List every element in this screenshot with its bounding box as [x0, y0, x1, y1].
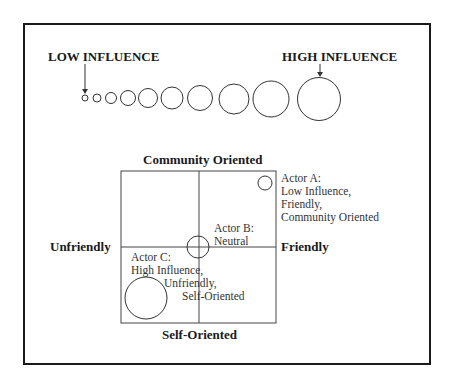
right-axis-label: Friendly	[281, 239, 329, 255]
influence-circle-7	[188, 86, 213, 111]
influence-circle-4	[121, 91, 136, 106]
influence-circle-8	[219, 84, 249, 114]
top-axis-label: Community Oriented	[143, 152, 263, 168]
bottom-axis-label: Self-Oriented	[162, 327, 237, 343]
left-axis-label: Unfriendly	[50, 239, 111, 255]
influence-circle-9	[253, 81, 289, 117]
low-influence-label: LOW INFLUENCE	[48, 49, 159, 65]
influence-circle-5	[139, 89, 158, 108]
influence-circle-1	[82, 95, 88, 101]
high-influence-label: HIGH INFLUENCE	[282, 49, 397, 65]
influence-circle-6	[161, 87, 183, 109]
influence-circle-3	[106, 93, 117, 104]
actor-b-note: Actor B: Neutral	[214, 222, 254, 248]
influence-circle-10	[298, 78, 341, 121]
influence-scale-circles	[82, 78, 341, 121]
influence-circle-2	[93, 94, 101, 102]
actor-c-note: Actor C: High Influence, Unfriendly, Sel…	[131, 251, 245, 303]
actor-a-circle	[258, 176, 272, 190]
actor-a-note: Actor A: Low Influence, Friendly, Commun…	[281, 172, 379, 224]
